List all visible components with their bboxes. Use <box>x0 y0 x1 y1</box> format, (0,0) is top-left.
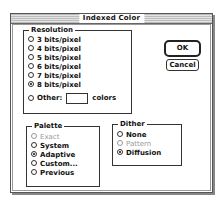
radio-5-bits[interactable]: 5 bits/pixel <box>28 54 81 62</box>
dialog-title: Indexed Color <box>79 14 144 23</box>
radio-icon <box>31 133 37 139</box>
radio-selected-icon <box>31 151 37 157</box>
indexed-color-dialog: Indexed Color Resolution 3 bits/pixel 4 … <box>10 13 213 193</box>
radio-icon <box>28 36 34 42</box>
dialog-body: Resolution 3 bits/pixel 4 bits/pixel 5 b… <box>12 24 211 191</box>
other-colors-input[interactable] <box>66 93 88 104</box>
radio-3-bits[interactable]: 3 bits/pixel <box>28 36 81 44</box>
title-bar[interactable]: Indexed Color <box>11 14 212 24</box>
radio-icon <box>28 63 34 69</box>
resolution-label: Resolution <box>29 26 75 35</box>
radio-icon <box>31 160 37 166</box>
dither-label: Dither <box>118 120 147 129</box>
radio-icon <box>28 54 34 60</box>
radio-diffusion[interactable]: Diffusion <box>117 149 161 157</box>
resolution-group: Resolution 3 bits/pixel 4 bits/pixel 5 b… <box>23 30 132 114</box>
radio-icon <box>31 142 37 148</box>
radio-custom[interactable]: Custom... <box>31 160 78 168</box>
radio-icon <box>28 45 34 51</box>
radio-selected-icon <box>117 149 123 155</box>
radio-icon <box>28 95 34 101</box>
ok-button[interactable]: OK <box>164 40 201 57</box>
radio-icon <box>117 131 123 137</box>
dither-group: Dither None Pattern Diffusion <box>112 124 182 166</box>
radio-icon <box>28 72 34 78</box>
radio-icon <box>31 169 37 175</box>
radio-other[interactable]: Other:colors <box>28 93 116 101</box>
radio-exact[interactable]: Exact <box>31 133 59 141</box>
radio-6-bits[interactable]: 6 bits/pixel <box>28 63 81 71</box>
radio-previous[interactable]: Previous <box>31 169 74 177</box>
palette-group: Palette Exact System Adaptive Custom... … <box>26 126 100 187</box>
radio-pattern[interactable]: Pattern <box>117 140 151 148</box>
radio-8-bits[interactable]: 8 bits/pixel <box>28 81 81 89</box>
radio-none[interactable]: None <box>117 131 146 139</box>
palette-label: Palette <box>32 122 64 131</box>
radio-7-bits[interactable]: 7 bits/pixel <box>28 72 81 80</box>
radio-system[interactable]: System <box>31 142 69 150</box>
radio-4-bits[interactable]: 4 bits/pixel <box>28 45 81 53</box>
cancel-button[interactable]: Cancel <box>166 59 199 71</box>
radio-selected-icon <box>28 81 34 87</box>
radio-adaptive[interactable]: Adaptive <box>31 151 75 159</box>
radio-icon <box>117 140 123 146</box>
